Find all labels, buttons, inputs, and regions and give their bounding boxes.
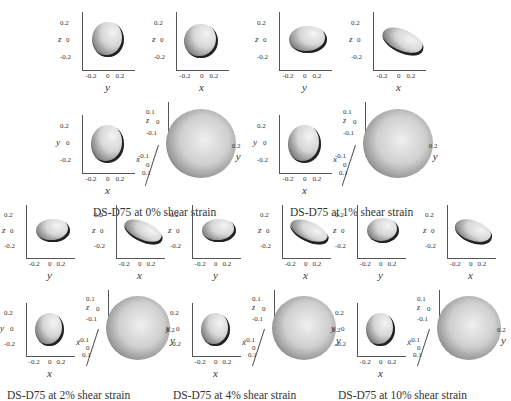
y-tick-label: 0.2 <box>60 20 69 27</box>
3d-view-plot: 0.10-0.1-0.100.10.2zxy <box>415 290 511 398</box>
x-tick-label: -0.2 <box>376 73 387 80</box>
x-tick-label: 0.2 <box>407 73 416 80</box>
y-tick-label: 0 <box>66 37 70 44</box>
y-tick-label: 0.2 <box>257 123 266 130</box>
x-tick-label: -0.2 <box>195 261 206 268</box>
particle-shape <box>366 313 396 347</box>
y-tick-label: 0.2 <box>94 212 103 219</box>
x-tick-label: -0.2 <box>85 73 96 80</box>
y-tick-label: -0.2 <box>257 157 268 164</box>
x-axis-label: x <box>47 368 52 379</box>
y-tick-label: -0.2 <box>60 54 71 61</box>
projection-plot: 0.20-0.2-0.200.2zx <box>92 205 180 288</box>
x-axis-label: x <box>378 368 383 379</box>
y-tick-label: 0 <box>160 37 164 44</box>
projection-plot: 0.20-0.2-0.200.2zy <box>255 12 347 100</box>
x-axis-label: x <box>407 338 411 347</box>
y-tick-label: -0.2 <box>94 243 105 250</box>
y-tick-label: -0.2 <box>260 243 271 250</box>
y-axis-label: y <box>331 324 335 333</box>
particle-shape <box>106 296 170 360</box>
y-tick-label: 0 <box>341 326 345 333</box>
y-axis-label: y <box>236 151 241 162</box>
z-tick-label: 0.1 <box>146 109 155 116</box>
x-axis-label: x <box>213 368 218 379</box>
y-tick-label: -0.2 <box>154 54 165 61</box>
x-tick-label: 0 <box>214 261 218 268</box>
x-tick-label: -0.2 <box>282 176 293 183</box>
figure-caption: DS-D75 at 10% shear strain <box>338 389 467 401</box>
x-tick-label: 0.1 <box>142 170 151 177</box>
projection-plot: 0.20-0.2-0.200.2zy <box>2 205 90 288</box>
x-tick-label: -0.2 <box>282 73 293 80</box>
particle-shape <box>184 24 218 59</box>
z-tick-label: -0.1 <box>252 316 263 323</box>
particle-shape <box>272 296 336 360</box>
x-axis-label: x <box>468 270 473 281</box>
y-tick-label: -0.2 <box>4 341 15 348</box>
y-tick-label: 0.2 <box>260 212 269 219</box>
x-tick-label: 0.2 <box>477 261 486 268</box>
x-axis-label: x <box>333 155 337 164</box>
y-tick-label: 0.2 <box>335 310 344 317</box>
3d-view-plot: 0.10-0.1-0.100.10.2zxy <box>144 102 269 217</box>
y-tick-label: 0.2 <box>351 20 360 27</box>
x-tick-label: 0 <box>303 73 307 80</box>
x-tick-label: 0 <box>379 359 383 366</box>
x-tick-label: 0 <box>146 162 150 169</box>
y-tick-label: -0.2 <box>335 243 346 250</box>
x-tick-label: 0.1 <box>82 352 91 359</box>
x-axis-label: y <box>378 270 383 281</box>
y-tick-label: -0.2 <box>170 341 181 348</box>
y-tick-label: 0.2 <box>60 123 69 130</box>
particle-shape <box>367 218 400 244</box>
x-tick-label: 0.2 <box>313 73 322 80</box>
x-axis-label: x <box>199 82 204 93</box>
x-axis-label: x <box>136 155 140 164</box>
z-axis-label: z <box>343 117 346 125</box>
x-tick-label: 0 <box>48 359 52 366</box>
x-axis-label: y <box>105 82 110 93</box>
y-tick-label: 0 <box>263 140 267 147</box>
z-tick-label: 0 <box>156 119 160 126</box>
y-tick-label: -0.2 <box>425 243 436 250</box>
y-tick-label: 0.2 <box>232 143 241 150</box>
z-axis-label: z <box>146 117 149 125</box>
x-axis-label: x <box>302 185 307 196</box>
x-tick-label: 0 <box>138 261 142 268</box>
x-axis-label: x <box>76 338 80 347</box>
x-tick-label: -0.2 <box>195 359 206 366</box>
z-tick-label: 0 <box>262 306 266 313</box>
projection-plot: 0.20-0.2-0.200.2zy <box>333 205 421 288</box>
y-tick-label: -0.2 <box>4 243 15 250</box>
y-tick-label: 0.2 <box>170 212 179 219</box>
z-tick-label: -0.1 <box>417 316 428 323</box>
y-tick-label: 0 <box>100 228 104 235</box>
x-tick-label: 0.2 <box>116 73 125 80</box>
z-tick-label: 0 <box>353 119 357 126</box>
x-tick-label: 0 <box>303 176 307 183</box>
y-tick-label: 0 <box>176 228 180 235</box>
y-tick-label: 0.2 <box>335 212 344 219</box>
particle-shape <box>35 313 65 347</box>
x-axis-label: x <box>303 270 308 281</box>
z-axis-label: z <box>86 304 89 312</box>
x-tick-label: 0.1 <box>413 352 422 359</box>
x-axis-label: x <box>242 338 246 347</box>
particle-shape <box>363 109 433 179</box>
x-tick-label: -0.2 <box>119 261 130 268</box>
projection-plot: 0.20-0.2-0.200.2zx <box>152 12 244 100</box>
y-tick-label: -0.2 <box>170 243 181 250</box>
y-tick-label: 0.2 <box>425 212 434 219</box>
figure-caption: DS-D75 at 4% shear strain <box>173 389 296 401</box>
y-tick-label: 0 <box>341 228 345 235</box>
y-axis-label: z <box>2 226 6 235</box>
particle-shape <box>201 313 231 347</box>
x-tick-label: 0.1 <box>248 352 257 359</box>
y-tick-label: 0.2 <box>154 20 163 27</box>
x-tick-label: 0.2 <box>387 359 396 366</box>
y-axis-label: y <box>433 151 438 162</box>
x-tick-label: 0 <box>304 261 308 268</box>
y-axis-label: y <box>166 324 170 333</box>
y-axis-label: z <box>255 35 259 44</box>
